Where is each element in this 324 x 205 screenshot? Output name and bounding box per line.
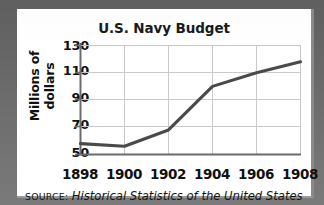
data-series-line <box>81 62 301 146</box>
chart-card: U.S. Navy Budget Millions of dollars 130… <box>17 9 314 198</box>
chart-card-inner: U.S. Navy Budget Millions of dollars 130… <box>17 9 311 196</box>
source-note: SOURCE: Historical Statistics of the Uni… <box>25 189 311 203</box>
source-keyword: SOURCE: <box>25 191 68 202</box>
grid-horizontal <box>80 46 301 127</box>
source-title: Historical Statistics of the United Stat… <box>72 189 303 203</box>
x-tick-label: 1908 <box>274 166 324 182</box>
figure-frame: U.S. Navy Budget Millions of dollars 130… <box>0 0 324 205</box>
